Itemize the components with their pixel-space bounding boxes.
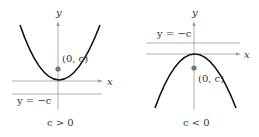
parabola-diagram: y x (0, c) y = −c c > 0 y x (0, c) y = −…: [0, 0, 259, 137]
x-axis-label: x: [107, 76, 113, 87]
condition-label: c > 0: [47, 117, 74, 128]
y-axis-label: y: [55, 7, 62, 18]
focus-label: (0, c): [62, 53, 88, 64]
panel-left: y x (0, c) y = −c c > 0: [12, 7, 113, 128]
x-axis-label: x: [244, 49, 250, 60]
y-axis-label: y: [191, 7, 198, 18]
condition-label: c < 0: [183, 117, 210, 128]
focus-point: [191, 65, 196, 70]
directrix-label: y = −c: [16, 95, 52, 106]
panel-right: y x (0, c) y = −c c < 0: [146, 7, 250, 128]
focus-label: (0, c): [198, 73, 224, 84]
focus-point: [55, 66, 60, 71]
directrix-label: y = −c: [156, 28, 192, 39]
